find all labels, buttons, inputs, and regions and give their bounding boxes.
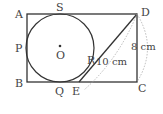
center-point [59,45,62,48]
dimension-arc-de [84,14,137,90]
label-e: E [72,85,80,98]
label-de-length: 10 cm [96,56,128,67]
rectangle-abcd [27,14,137,82]
label-r: R [87,54,96,67]
label-c: C [138,82,146,95]
label-d: D [141,6,150,19]
label-p: P [15,42,23,55]
diagram-svg: A S D P O R 10 cm 8 cm B Q E C [0,0,163,114]
label-a: A [14,8,24,21]
label-o: O [56,49,65,62]
label-dc-length: 8 cm [131,41,156,52]
label-b: B [15,77,23,90]
circle-o [26,14,94,82]
geometry-diagram: A S D P O R 10 cm 8 cm B Q E C [0,0,163,114]
label-q: Q [55,85,64,98]
segment-de [79,14,137,82]
label-s: S [56,1,64,14]
